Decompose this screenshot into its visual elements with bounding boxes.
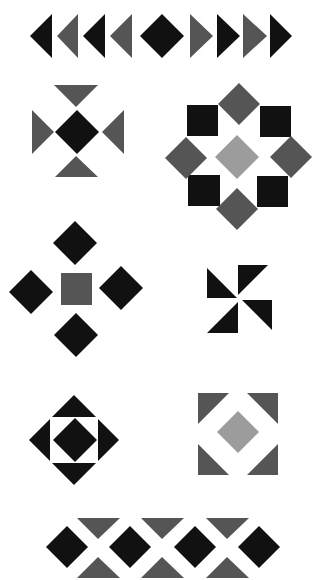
quilt-pattern-sheet — [0, 0, 325, 580]
square-shape — [260, 106, 291, 137]
square-shape — [257, 176, 288, 207]
square-shape — [61, 273, 92, 305]
pattern-canvas — [0, 0, 325, 580]
square-shape — [188, 175, 220, 206]
square-shape — [187, 105, 218, 136]
